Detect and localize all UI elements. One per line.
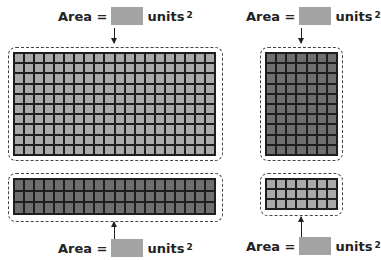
unit-square [14, 94, 24, 104]
unit-square [145, 114, 155, 124]
unit-square [64, 191, 74, 203]
unit-square [44, 191, 54, 203]
unit-square [327, 73, 337, 83]
unit-square [165, 53, 175, 63]
unit-square [155, 73, 165, 83]
unit-square [135, 53, 145, 63]
answer-box[interactable] [111, 7, 143, 25]
unit-square [195, 53, 205, 63]
unit-square [14, 84, 24, 94]
unit-grid-bottom-right [265, 178, 338, 210]
unit-square [165, 104, 175, 114]
unit-square [135, 191, 145, 203]
unit-square [317, 53, 327, 63]
unit-square [54, 63, 64, 73]
unit-square [286, 199, 296, 209]
unit-square [74, 145, 84, 155]
unit-square [307, 124, 317, 134]
unit-square [94, 94, 104, 104]
unit-square [165, 114, 175, 124]
unit-square [125, 73, 135, 83]
unit-square [307, 114, 317, 124]
unit-square [317, 179, 327, 189]
unit-square [115, 73, 125, 83]
unit-square [74, 202, 84, 214]
unit-square [317, 135, 327, 145]
unit-square [327, 179, 337, 189]
unit-square [44, 104, 54, 114]
unit-square [94, 63, 104, 73]
unit-square [34, 179, 44, 191]
unit-square [185, 191, 195, 203]
unit-square [205, 73, 215, 83]
unit-square [195, 84, 205, 94]
unit-square [54, 104, 64, 114]
unit-square [296, 179, 306, 189]
unit-square [145, 104, 155, 114]
unit-square [135, 145, 145, 155]
unit-square [307, 53, 317, 63]
unit-square [135, 73, 145, 83]
unit-square [104, 114, 114, 124]
unit-square [74, 94, 84, 104]
unit-square [125, 94, 135, 104]
answer-box[interactable] [299, 7, 331, 25]
unit-square [24, 114, 34, 124]
arrow-up-icon [301, 217, 302, 237]
unit-square [317, 104, 327, 114]
unit-square [145, 179, 155, 191]
unit-square [286, 73, 296, 83]
unit-square [135, 179, 145, 191]
unit-square [94, 114, 104, 124]
unit-square [14, 202, 24, 214]
unit-square [24, 179, 34, 191]
unit-square [195, 179, 205, 191]
unit-square [14, 104, 24, 114]
unit-square [135, 63, 145, 73]
unit-square [34, 202, 44, 214]
unit-square [64, 202, 74, 214]
unit-square [64, 63, 74, 73]
unit-square [205, 84, 215, 94]
unit-square [327, 94, 337, 104]
unit-square [175, 73, 185, 83]
area-prefix: Area = [58, 9, 107, 24]
unit-square [84, 135, 94, 145]
units-text: units [147, 9, 184, 24]
unit-square [296, 124, 306, 134]
unit-square [145, 84, 155, 94]
unit-square [195, 124, 205, 134]
unit-square [74, 191, 84, 203]
unit-square [145, 145, 155, 155]
unit-square [185, 202, 195, 214]
answer-box[interactable] [299, 237, 331, 255]
unit-square [266, 124, 276, 134]
unit-square [125, 179, 135, 191]
unit-square [327, 53, 337, 63]
unit-square [155, 124, 165, 134]
unit-square [24, 145, 34, 155]
unit-square [44, 145, 54, 155]
unit-square [286, 189, 296, 199]
unit-square [296, 94, 306, 104]
unit-square [74, 53, 84, 63]
unit-square [44, 179, 54, 191]
unit-square [54, 84, 64, 94]
answer-box[interactable] [111, 239, 143, 257]
unit-square [34, 84, 44, 94]
unit-square [175, 135, 185, 145]
unit-square [115, 179, 125, 191]
unit-square [185, 73, 195, 83]
unit-square [195, 202, 205, 214]
unit-square [205, 191, 215, 203]
unit-square [185, 84, 195, 94]
unit-square [115, 94, 125, 104]
unit-square [125, 84, 135, 94]
unit-square [34, 53, 44, 63]
unit-square [175, 145, 185, 155]
unit-square [64, 124, 74, 134]
unit-square [14, 53, 24, 63]
unit-square [286, 145, 296, 155]
unit-square [125, 124, 135, 134]
unit-square [54, 135, 64, 145]
